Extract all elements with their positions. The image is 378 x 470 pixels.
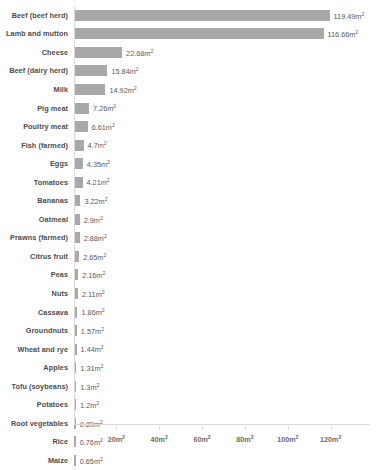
- value-label: 1.31m2: [80, 362, 103, 373]
- bar-container: 119.49m2: [74, 6, 378, 25]
- tick-mark: [245, 426, 246, 429]
- bar-container: 116.66m2: [74, 25, 378, 44]
- tick-mark: [288, 426, 289, 429]
- bar[interactable]: [74, 177, 83, 188]
- value-label: 1.44m2: [81, 343, 104, 354]
- tick-mark: [331, 426, 332, 429]
- bar[interactable]: [74, 47, 123, 58]
- bar-container: 2.65m2: [74, 247, 378, 266]
- x-tick-label: 40m2: [151, 434, 168, 444]
- bar-row: Nuts2.11m2: [0, 284, 378, 303]
- value-label: 1.57m2: [81, 325, 104, 336]
- category-label: Wheat and rye: [0, 345, 68, 354]
- x-tick-label: 100m2: [277, 434, 298, 444]
- bar-container: 2.9m2: [74, 210, 378, 229]
- value-label: 3.22m2: [84, 195, 107, 206]
- value-label: 22.68m2: [126, 47, 153, 58]
- bar-row: Tofu (soybeans)1.3m2: [0, 377, 378, 396]
- category-label: Peas: [0, 270, 68, 279]
- bar-container: 6.61m2: [74, 117, 378, 136]
- bar-container: 22.68m2: [74, 43, 378, 62]
- category-label: Bananas: [0, 196, 68, 205]
- bar-row: Bananas3.22m2: [0, 191, 378, 210]
- category-label: Prawns (farmed): [0, 233, 68, 242]
- value-label: 1.86m2: [81, 306, 104, 317]
- category-label: Tofu (soybeans): [0, 382, 68, 391]
- bar-container: 1.2m2: [74, 395, 378, 414]
- category-label: Citrus fruit: [0, 252, 68, 261]
- bar-row: Cassava1.86m2: [0, 303, 378, 322]
- bar[interactable]: [74, 84, 106, 95]
- value-label: 2.9m2: [84, 214, 103, 225]
- y-axis-line: [74, 6, 75, 424]
- plot-area: Beef (beef herd)119.49m2Lamb and mutton1…: [0, 6, 378, 424]
- bar[interactable]: [74, 65, 108, 76]
- value-label: 4.35m2: [87, 158, 110, 169]
- bar-row: Peas2.16m2: [0, 266, 378, 285]
- bar-row: Groundnuts1.57m2: [0, 321, 378, 340]
- value-label: 2.11m2: [82, 288, 105, 299]
- bar-container: 1.57m2: [74, 321, 378, 340]
- bar-row: Cheese22.68m2: [0, 43, 378, 62]
- bar-row: Milk14.92m2: [0, 80, 378, 99]
- bar-container: 2.11m2: [74, 284, 378, 303]
- category-label: Cheese: [0, 48, 68, 57]
- value-label: 14.92m2: [109, 84, 136, 95]
- bar-container: 1.31m2: [74, 358, 378, 377]
- bar-container: 2.88m2: [74, 229, 378, 248]
- bar-row: Beef (beef herd)119.49m2: [0, 6, 378, 25]
- value-label: 4.21m2: [87, 176, 110, 187]
- category-label: Maize: [0, 456, 68, 465]
- category-label: Oatmeal: [0, 215, 68, 224]
- bar-container: 14.92m2: [74, 80, 378, 99]
- bar-row: Pig meat7.26m2: [0, 99, 378, 118]
- category-label: Beef (dairy herd): [0, 66, 68, 75]
- bar-container: 1.3m2: [74, 377, 378, 396]
- category-label: Potatoes: [0, 400, 68, 409]
- x-axis-line: [74, 424, 370, 425]
- bar[interactable]: [74, 455, 76, 466]
- value-label: 119.49m2: [334, 10, 365, 21]
- bar-row: Fish (farmed)4.7m2: [0, 136, 378, 155]
- category-label: Cassava: [0, 308, 68, 317]
- bar-container: 1.44m2: [74, 340, 378, 359]
- bar-row: Lamb and mutton116.66m2: [0, 25, 378, 44]
- x-tick-label: 20m2: [108, 434, 125, 444]
- bar[interactable]: [74, 28, 324, 39]
- bar[interactable]: [74, 195, 81, 206]
- category-label: Lamb and mutton: [0, 29, 68, 38]
- value-label: 2.88m2: [84, 232, 107, 243]
- category-label: Nuts: [0, 289, 68, 298]
- bar-row: Eggs4.35m2: [0, 154, 378, 173]
- category-label: Milk: [0, 85, 68, 94]
- bar[interactable]: [74, 10, 330, 21]
- category-label: Groundnuts: [0, 326, 68, 335]
- tick-mark: [116, 426, 117, 429]
- bar-container: 3.22m2: [74, 191, 378, 210]
- bar-container: 15.84m2: [74, 62, 378, 81]
- bar-container: 4.7m2: [74, 136, 378, 155]
- category-label: Beef (beef herd): [0, 11, 68, 20]
- bar[interactable]: [74, 158, 83, 169]
- value-label: 2.65m2: [83, 251, 106, 262]
- value-label: 2.16m2: [82, 269, 105, 280]
- category-label: Eggs: [0, 159, 68, 168]
- bar-row: Oatmeal2.9m2: [0, 210, 378, 229]
- bar-container: 4.21m2: [74, 173, 378, 192]
- bar[interactable]: [74, 121, 88, 132]
- tick-mark: [202, 426, 203, 429]
- bar[interactable]: [74, 103, 90, 114]
- bar[interactable]: [74, 140, 84, 151]
- category-label: Tomatoes: [0, 178, 68, 187]
- x-tick-label: 60m2: [193, 434, 210, 444]
- value-label: 7.26m2: [93, 102, 116, 113]
- bar-container: 1.86m2: [74, 303, 378, 322]
- bar-container: 0.65m2: [74, 451, 378, 470]
- category-label: Fish (farmed): [0, 141, 68, 150]
- x-axis-ticks: 20m240m260m280m2100m2120m2: [0, 426, 378, 446]
- bar-row: Poultry meat6.61m2: [0, 117, 378, 136]
- bar-container: 7.26m2: [74, 99, 378, 118]
- category-label: Pig meat: [0, 104, 68, 113]
- value-label: 1.2m2: [80, 399, 99, 410]
- bar-row: Beef (dairy herd)15.84m2: [0, 62, 378, 81]
